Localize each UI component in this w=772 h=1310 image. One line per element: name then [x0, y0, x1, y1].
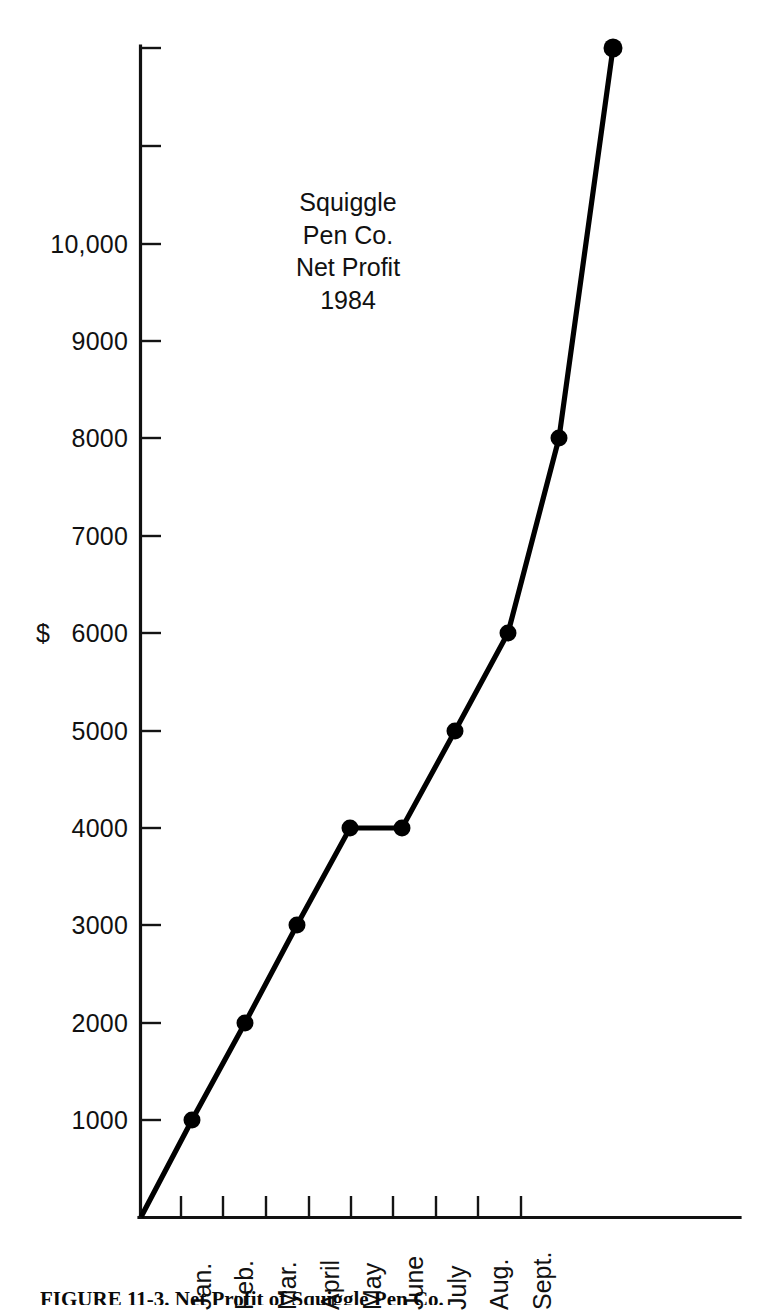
data-point-feb [237, 1015, 254, 1032]
data-point-aug [551, 430, 568, 447]
figure-caption: FIGURE 11-3. Net Profit of Squiggle Pen … [40, 1288, 740, 1305]
y-tick-label-3000: 3000 [0, 913, 128, 938]
y-tick-label-1000: 1000 [0, 1108, 128, 1133]
data-point-april [342, 820, 359, 837]
data-point-june [447, 723, 464, 740]
data-point-sept [604, 39, 623, 58]
x-axis-ticks [181, 1196, 521, 1216]
y-tick-label-4000: 4000 [0, 816, 128, 841]
chart-title-line-3: Net Profit [258, 251, 438, 284]
y-tick-label-10000: 10,000 [0, 232, 128, 257]
y-tick-label-7000: 7000 [0, 524, 128, 549]
data-point-may [394, 820, 411, 837]
data-point-mar [289, 917, 306, 934]
y-tick-label-9000: 9000 [0, 329, 128, 354]
data-point-july [500, 625, 517, 642]
y-tick-label-5000: 5000 [0, 719, 128, 744]
y-axis-ticks [141, 48, 161, 1120]
chart-title-line-4: 1984 [258, 284, 438, 317]
data-point-jan [184, 1112, 201, 1129]
chart-title-line-2: Pen Co. [258, 219, 438, 252]
chart-title-line-1: Squiggle [258, 186, 438, 219]
y-tick-label-8000: 8000 [0, 426, 128, 451]
chart-title: Squiggle Pen Co. Net Profit 1984 [258, 186, 438, 316]
y-tick-label-6000: 6000 [0, 621, 128, 646]
y-axis-unit-label: $ [36, 621, 50, 646]
y-tick-label-2000: 2000 [0, 1011, 128, 1036]
